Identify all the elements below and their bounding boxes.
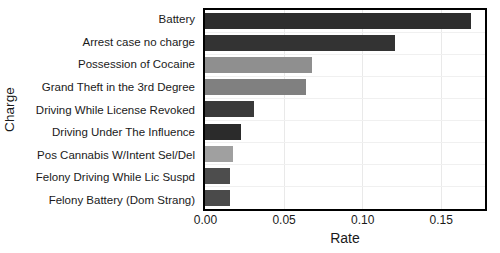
bar-row: [205, 76, 485, 98]
x-axis-tick-label: 0.10: [351, 213, 374, 227]
y-axis-tick-labels: BatteryArrest case no chargePossession o…: [18, 8, 200, 211]
y-axis-tick-label: Pos Cannabis W/Intent Sel/Del: [18, 143, 200, 166]
bar: [205, 168, 230, 184]
bar-chart: Charge BatteryArrest case no chargePosse…: [0, 0, 500, 253]
bar: [205, 190, 230, 206]
bar: [205, 35, 395, 51]
bar: [205, 79, 306, 95]
bar: [205, 124, 241, 140]
y-axis-tick-label: Felony Driving While Lic Suspd: [18, 166, 200, 189]
bar-row: [205, 165, 485, 187]
x-axis-tick-label: 0.15: [430, 213, 453, 227]
x-axis-title-label: Rate: [330, 230, 360, 246]
bar-row: [205, 143, 485, 165]
plot-area: [203, 8, 487, 211]
y-axis-tick-label: Arrest case no charge: [18, 31, 200, 54]
bar: [205, 13, 471, 29]
y-axis-tick-label: Battery: [18, 8, 200, 31]
bar-row: [205, 187, 485, 209]
bar: [205, 57, 312, 73]
bar-row: [205, 98, 485, 120]
x-axis-tick-labels: 0.000.050.100.15: [203, 213, 487, 229]
bar: [205, 101, 254, 117]
bar-row: [205, 10, 485, 32]
y-axis-title-label: Charge: [2, 87, 17, 132]
y-axis-tick-label: Driving While License Revoked: [18, 98, 200, 121]
y-axis-tick-label: Possession of Cocaine: [18, 53, 200, 76]
bar: [205, 146, 233, 162]
y-axis-tick-label: Driving Under The Influence: [18, 121, 200, 144]
x-axis-tick-label: 0.05: [272, 213, 295, 227]
x-axis-title: Rate: [203, 230, 487, 246]
y-axis-tick-label: Felony Battery (Dom Strang): [18, 189, 200, 212]
bar-row: [205, 54, 485, 76]
bar-series: [205, 10, 485, 209]
x-axis-tick-label: 0.00: [194, 213, 217, 227]
y-axis-tick-label: Grand Theft in the 3rd Degree: [18, 76, 200, 99]
bar-row: [205, 121, 485, 143]
y-axis-title: Charge: [0, 0, 18, 218]
bar-row: [205, 32, 485, 54]
